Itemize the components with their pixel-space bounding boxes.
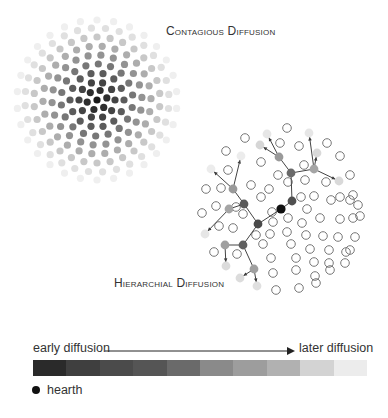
unaffected-location xyxy=(269,269,278,278)
diffusion-dot xyxy=(88,150,95,157)
diffusion-dot xyxy=(142,120,149,127)
unaffected-location xyxy=(310,192,319,201)
unaffected-location xyxy=(276,139,285,148)
diffusion-dot xyxy=(80,35,87,42)
unaffected-location xyxy=(241,134,250,143)
diffusion-dot xyxy=(22,102,29,109)
diffusion-dot xyxy=(39,128,46,135)
diffusion-dot xyxy=(123,51,130,58)
unaffected-location xyxy=(267,254,276,263)
diffusion-dot xyxy=(114,136,121,143)
diffusion-dot xyxy=(110,118,117,125)
diffusion-dot xyxy=(46,32,53,39)
diffusion-dot xyxy=(120,96,127,103)
time-arrow-icon xyxy=(105,346,295,356)
diffusion-dot xyxy=(51,112,58,119)
diffusion-dot xyxy=(87,70,94,77)
diffusion-dot xyxy=(147,95,154,102)
diffusion-dot xyxy=(24,136,31,143)
diffusion-dot xyxy=(133,119,140,126)
diffusion-dot xyxy=(146,82,153,89)
diffusion-dot xyxy=(90,141,97,148)
diffusion-dot xyxy=(141,70,148,77)
diffusion-dot xyxy=(102,141,109,148)
diffusion-dot xyxy=(170,121,177,128)
diffusion-dot xyxy=(14,88,21,95)
diffusion-dot xyxy=(82,62,89,69)
diffusion-dot xyxy=(140,32,147,39)
unaffected-location xyxy=(222,147,231,156)
diffusion-dot xyxy=(47,139,54,146)
diffusion-dot xyxy=(79,107,86,114)
diffusion-dot xyxy=(54,133,61,140)
diffusion-dot xyxy=(24,116,31,123)
diffusion-dot xyxy=(95,60,102,67)
diffusion-node xyxy=(275,153,284,162)
unaffected-location xyxy=(346,196,355,205)
diffusion-dot xyxy=(76,147,83,154)
diffusion-time-gradient xyxy=(33,360,367,376)
unaffected-location xyxy=(247,181,256,190)
diffusion-dot xyxy=(79,86,86,93)
diffusion-link xyxy=(208,209,229,231)
diffusion-dot xyxy=(88,114,95,121)
diffusion-dot xyxy=(69,123,76,130)
diffusion-dot xyxy=(140,161,147,168)
diffusion-dot xyxy=(121,61,128,68)
unaffected-location xyxy=(295,284,304,293)
diffusion-node xyxy=(335,177,344,186)
diffusion-dot xyxy=(41,85,48,92)
diffusion-dot xyxy=(14,105,21,112)
unaffected-location xyxy=(292,254,301,263)
unaffected-location xyxy=(252,231,261,240)
diffusion-dot xyxy=(114,146,121,153)
diffusion-dot xyxy=(140,42,147,49)
gradient-segment xyxy=(267,360,300,376)
diffusion-dot xyxy=(153,116,160,123)
unaffected-location xyxy=(336,215,345,224)
diffusion-dot xyxy=(126,23,133,30)
diffusion-node xyxy=(239,241,248,250)
diffusion-node xyxy=(221,241,230,250)
later-diffusion-label: later diffusion xyxy=(299,341,373,355)
contagious-diffusion-cluster xyxy=(14,16,180,183)
unaffected-location xyxy=(319,232,328,241)
diffusion-dot xyxy=(69,85,76,92)
diffusion-dot xyxy=(99,70,106,77)
unaffected-location xyxy=(349,191,358,200)
diffusion-link xyxy=(233,160,240,189)
diffusion-dot xyxy=(34,150,41,157)
diffusion-dot xyxy=(97,87,104,94)
diffusion-dot xyxy=(77,118,84,125)
diffusion-dot xyxy=(17,72,24,79)
diffusion-dot xyxy=(150,52,157,59)
diffusion-dot xyxy=(47,151,54,158)
diffusion-dot xyxy=(62,113,69,120)
diffusion-dot xyxy=(58,159,65,166)
hearth-dot xyxy=(93,96,100,103)
unaffected-location xyxy=(323,139,332,148)
diffusion-dot xyxy=(34,116,41,123)
diffusion-dot xyxy=(110,75,117,82)
diffusion-dot xyxy=(57,123,64,130)
diffusion-dot xyxy=(58,101,65,108)
diffusion-dot xyxy=(93,33,100,40)
unaffected-location xyxy=(217,184,226,193)
diffusion-node xyxy=(236,274,245,283)
unaffected-location xyxy=(298,219,307,228)
unaffected-location xyxy=(336,152,345,161)
diffusion-dot xyxy=(146,108,153,115)
diffusion-dot xyxy=(153,150,160,157)
diffusion-dot xyxy=(107,35,114,42)
unaffected-location xyxy=(310,258,319,267)
diffusion-dot xyxy=(119,39,126,46)
gradient-segment xyxy=(33,360,66,376)
diffusion-dot xyxy=(93,159,100,166)
diffusion-dot xyxy=(113,166,120,173)
diffusion-dot xyxy=(47,54,54,61)
unaffected-location xyxy=(284,214,293,223)
diffusion-node xyxy=(250,265,259,274)
diffusion-dot xyxy=(140,139,147,146)
diffusion-dot xyxy=(99,168,106,175)
unaffected-location xyxy=(295,142,304,151)
